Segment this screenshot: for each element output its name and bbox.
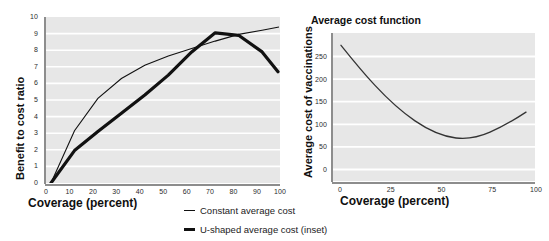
average-cost-plot-area xyxy=(332,33,535,181)
average-cost-y-tick: 150 xyxy=(309,98,327,105)
average-cost-panel: Average cost function Average cost of va… xyxy=(290,0,549,241)
average-cost-y-axis-line xyxy=(331,33,333,182)
legend-item-constant-average-cost[interactable]: Constant average cost xyxy=(184,205,295,216)
legend-line-thick-icon xyxy=(184,228,195,231)
average-cost-x-axis-title: Coverage (percent) xyxy=(340,194,449,208)
average-cost-x-tick: 100 xyxy=(528,186,544,193)
legend-label: Constant average cost xyxy=(200,205,295,216)
average-cost-plot-svg xyxy=(332,33,535,181)
figure-root: Benefit to cost ratio 10 9 8 7 6 5 4 3 2… xyxy=(0,0,549,241)
legend-line-thin-icon xyxy=(184,210,195,211)
average-cost-x-tick: 75 xyxy=(485,186,499,193)
average-cost-x-tick: 50 xyxy=(435,186,449,193)
average-cost-x-axis-line xyxy=(332,182,535,184)
average-cost-y-tick: 250 xyxy=(309,53,327,60)
average-cost-x-tick: 25 xyxy=(384,186,398,193)
average-cost-gridlines xyxy=(332,57,535,170)
average-cost-y-tick: 0 xyxy=(309,166,327,173)
average-cost-title: Average cost function xyxy=(311,14,421,26)
average-cost-y-tick: 50 xyxy=(309,143,327,150)
average-cost-x-tick: 0 xyxy=(333,186,347,193)
average-cost-y-tick: 100 xyxy=(309,121,327,128)
average-cost-y-tick: 200 xyxy=(309,76,327,83)
